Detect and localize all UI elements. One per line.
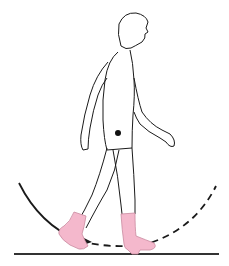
head-outline [118, 13, 148, 49]
center-of-mass-dot [115, 130, 121, 136]
back-boot [59, 212, 88, 249]
front-boot [121, 213, 155, 254]
walking-figure-diagram: Side view of a walking person wearing pi… [0, 0, 229, 266]
diagram-canvas [0, 0, 229, 266]
front-arm-outline [134, 78, 175, 147]
front-leg-outline [113, 148, 135, 214]
rotation-arc-dashed [80, 186, 216, 246]
